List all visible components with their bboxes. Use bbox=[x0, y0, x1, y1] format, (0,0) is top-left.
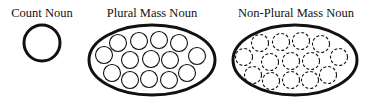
plural-member-circle bbox=[162, 52, 179, 69]
plural-member-circle bbox=[141, 71, 158, 88]
plural-member-circle bbox=[161, 72, 178, 89]
count-noun-circle bbox=[24, 25, 60, 61]
plural-member-circle bbox=[171, 35, 188, 52]
plural-member-circle bbox=[110, 35, 127, 52]
non-plural-member-circle bbox=[273, 34, 290, 51]
non-plural-member-circle bbox=[320, 67, 337, 84]
plural-member-circle bbox=[189, 48, 206, 65]
non-plural-member-circle bbox=[303, 53, 320, 70]
plural-member-circle bbox=[131, 33, 148, 50]
plural-member-circle bbox=[104, 65, 121, 82]
non-plural-member-circle bbox=[283, 72, 300, 89]
plural-member-circle bbox=[122, 72, 139, 89]
non-plural-member-circle bbox=[236, 49, 253, 66]
non-plural-member-circle bbox=[331, 49, 348, 66]
non-plural-member-circle bbox=[283, 53, 300, 70]
non-plural-member-circle bbox=[263, 73, 280, 90]
plural-member-circle bbox=[179, 65, 196, 82]
plural-member-circle bbox=[122, 52, 139, 69]
plural-member-circle bbox=[96, 47, 113, 64]
noun-diagram bbox=[0, 0, 373, 105]
plural-member-circle bbox=[151, 32, 168, 49]
non-plural-member-circle bbox=[293, 33, 310, 50]
non-plural-member-circle bbox=[302, 72, 319, 89]
non-plural-member-circle bbox=[252, 35, 269, 52]
non-plural-member-circle bbox=[262, 54, 279, 71]
plural-member-circle bbox=[143, 51, 160, 68]
non-plural-member-circle bbox=[313, 36, 330, 53]
